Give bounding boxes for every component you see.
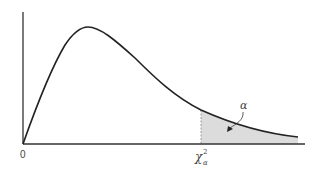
density-curve (23, 27, 298, 144)
origin-label: 0 (20, 149, 26, 160)
chi-square-diagram: α 0 χ 2 α (0, 0, 319, 175)
critical-value-subscript: α (203, 159, 208, 167)
critical-value-chi: χ (194, 150, 203, 164)
critical-value-superscript: 2 (203, 148, 207, 156)
alpha-label: α (240, 99, 248, 112)
